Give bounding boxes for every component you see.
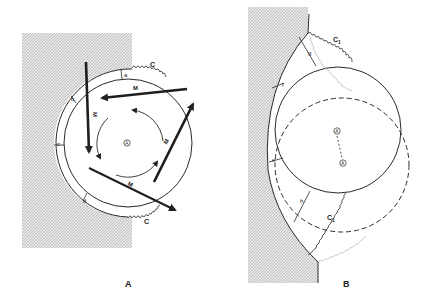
label-h: h [300,198,303,204]
panel-caption-A: A [125,279,132,289]
panel-b: g f e h C1 C1 A A B [248,7,409,289]
label-d: d [83,198,86,204]
wavy-connective-c1-bottom [308,193,346,255]
label-M-left: M [92,112,98,117]
label-C1-top: C1 [333,36,341,45]
hatched-region-b [248,7,318,283]
tick-h [294,191,310,222]
label-C-top: C [150,61,155,68]
label-M-top: M [133,85,138,91]
label-center-solid: A [335,129,338,134]
label-c: c [57,141,60,147]
label-center-A: A [125,141,128,146]
label-center-dashed: A [341,161,344,166]
panel-a: a b c d C C A M M M M A [22,33,212,289]
wavy-connective-c1-top-faint [309,36,352,91]
displacement-line [337,136,342,158]
wavy-connective-c1-top [308,32,352,62]
figure-canvas: a b c d C C A M M M M A [0,0,434,295]
label-C-bottom: C [144,218,149,225]
wavy-connective-c1-bottom-faint [318,236,366,262]
panel-caption-B: B [343,279,350,289]
label-g: g [308,50,311,56]
